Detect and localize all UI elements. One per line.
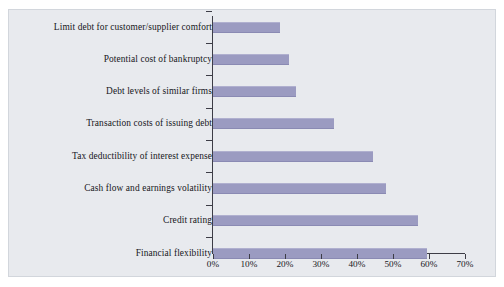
bar — [213, 118, 334, 129]
y-axis-tick — [206, 237, 212, 238]
y-axis-tick — [206, 140, 212, 141]
category-label: Transaction costs of issuing debt — [86, 118, 212, 129]
bar — [213, 183, 386, 194]
chart-figure: Limit debt for customer/supplier comfort… — [0, 0, 504, 287]
x-axis-tick-label: 60% — [409, 259, 449, 269]
bar — [213, 86, 296, 97]
bar — [213, 151, 373, 162]
x-axis-tick-label: 10% — [229, 259, 269, 269]
y-axis-tick — [206, 172, 212, 173]
y-axis-tick — [206, 75, 212, 76]
y-axis-tick — [206, 11, 212, 12]
bar — [213, 215, 418, 226]
chart-plot-area: Limit debt for customer/supplier comfort… — [0, 0, 504, 287]
category-label: Limit debt for customer/supplier comfort — [54, 22, 212, 33]
bar — [213, 22, 280, 33]
y-axis-tick — [206, 205, 212, 206]
x-axis-tick-label: 40% — [337, 259, 377, 269]
category-label: Financial flexibility — [136, 248, 212, 259]
category-label: Potential cost of bankruptcy — [104, 54, 212, 65]
x-axis-tick-label: 70% — [445, 259, 485, 269]
category-label: Debt levels of similar firms — [106, 86, 212, 97]
x-axis-tick-label: 50% — [373, 259, 413, 269]
x-axis-tick-label: 20% — [265, 259, 305, 269]
y-axis-tick — [206, 43, 212, 44]
y-axis-tick — [206, 108, 212, 109]
x-axis-tick-label: 30% — [301, 259, 341, 269]
category-label: Tax deductibility of interest expense — [72, 151, 212, 162]
bar — [213, 54, 289, 65]
category-label: Cash flow and earnings volatility — [84, 183, 212, 194]
category-label: Credit rating — [163, 215, 212, 226]
x-axis-tick-label: 0% — [193, 259, 233, 269]
